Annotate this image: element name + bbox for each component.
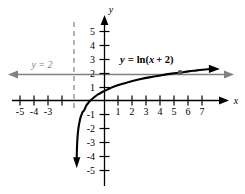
curve-right-arrowhead xyxy=(209,65,220,73)
x-tick-label: -4 xyxy=(30,106,38,117)
x-tick-label: -5 xyxy=(16,106,24,117)
y-tick-label: 5 xyxy=(90,26,95,37)
equation-label-tail: + 2) xyxy=(156,54,174,66)
x-tick-label: 6 xyxy=(186,106,191,117)
equation-label-ln: ln( xyxy=(137,54,150,66)
y-tick-label: 3 xyxy=(90,54,95,65)
y-axis-label: y xyxy=(108,4,114,15)
x-tick-label: 3 xyxy=(144,106,149,117)
x-axis-label: x xyxy=(233,95,239,106)
horizontal-asymptote-label: y = 2 xyxy=(30,59,52,70)
x-tick-label: 1 xyxy=(116,106,121,117)
y-tick-label: -5 xyxy=(87,165,95,176)
y-tick-label: 2 xyxy=(90,68,95,79)
y-tick-label: 1 xyxy=(90,82,95,93)
y-tick-label: -1 xyxy=(87,109,95,120)
marked-point-dot xyxy=(178,70,183,75)
x-tick-label: 2 xyxy=(130,106,135,117)
y-tick-label: -3 xyxy=(87,137,95,148)
equation-label-equals: = xyxy=(128,54,134,65)
y-tick-label: -2 xyxy=(87,123,95,134)
x-tick-label: -3 xyxy=(44,106,52,117)
equation-label: y=ln(x+ 2) xyxy=(118,54,174,66)
x-tick-label: 4 xyxy=(158,106,163,117)
x-tick-label: 5 xyxy=(172,106,177,117)
curve-bottom-arrowhead xyxy=(73,157,80,168)
x-tick-label: 7 xyxy=(200,106,205,117)
logarithmic-function-graph: -5 -4 -3 1 2 3 4 5 6 7 5 4 3 2 1 -1 -2 -… xyxy=(0,0,245,194)
equation-label-y: y xyxy=(118,54,125,65)
equation-label-x: x xyxy=(148,54,154,65)
horizontal-asymptote-left-arrowhead xyxy=(8,71,18,79)
x-tick-labels: -5 -4 -3 1 2 3 4 5 6 7 xyxy=(16,106,205,117)
horizontal-asymptote-right-arrowhead xyxy=(224,71,234,79)
y-tick-label: 4 xyxy=(90,40,95,51)
x-axis-arrowhead xyxy=(219,97,229,105)
y-tick-label: -4 xyxy=(87,151,95,162)
plot-area: -5 -4 -3 1 2 3 4 5 6 7 5 4 3 2 1 -1 -2 -… xyxy=(0,0,245,194)
horizontal-asymptote-line xyxy=(8,71,234,79)
y-axis-arrowhead xyxy=(101,15,109,25)
x-axis xyxy=(12,96,229,106)
